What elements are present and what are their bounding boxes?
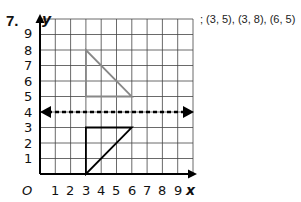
svg-text:2: 2 bbox=[66, 183, 74, 198]
svg-text:8: 8 bbox=[158, 183, 166, 198]
svg-text:4: 4 bbox=[97, 183, 105, 198]
svg-text:6: 6 bbox=[128, 183, 136, 198]
coordinate-grid: y 9 8 7 6 5 4 3 2 1 O 1 2 3 4 5 6 7 8 9 … bbox=[0, 0, 301, 202]
svg-text:5: 5 bbox=[24, 89, 32, 104]
svg-text:2: 2 bbox=[24, 136, 32, 151]
svg-text:7: 7 bbox=[143, 183, 151, 198]
svg-text:5: 5 bbox=[112, 183, 120, 198]
svg-text:3: 3 bbox=[24, 120, 32, 135]
right-arrow-icon bbox=[183, 106, 194, 118]
left-arrow-icon bbox=[40, 106, 51, 118]
svg-text:y: y bbox=[42, 11, 52, 27]
svg-text:4: 4 bbox=[24, 105, 32, 120]
svg-text:x: x bbox=[185, 182, 196, 198]
svg-text:6: 6 bbox=[24, 74, 32, 89]
reflected-triangle bbox=[86, 50, 132, 97]
svg-text:1: 1 bbox=[24, 151, 32, 166]
svg-text:7: 7 bbox=[24, 58, 32, 73]
svg-text:8: 8 bbox=[24, 43, 32, 58]
original-triangle bbox=[86, 128, 132, 175]
svg-text:1: 1 bbox=[51, 183, 59, 198]
svg-text:9: 9 bbox=[174, 183, 182, 198]
svg-text:3: 3 bbox=[82, 183, 90, 198]
svg-text:O: O bbox=[22, 183, 32, 198]
x-axis-arrow-icon bbox=[188, 170, 197, 179]
svg-text:9: 9 bbox=[24, 26, 32, 41]
